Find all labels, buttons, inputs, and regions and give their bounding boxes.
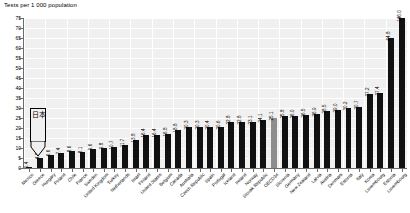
bar-value-label: 26.9 xyxy=(312,108,317,117)
y-axis-tick xyxy=(19,168,23,169)
y-axis-tick xyxy=(19,108,23,109)
bar-value-label: 64.8 xyxy=(386,32,391,41)
y-axis-tick-label: 60 xyxy=(1,46,21,51)
y-axis-tick xyxy=(19,138,23,139)
x-axis-labels: MexicoGreeceHungaryPolandChileFranceSwed… xyxy=(24,172,407,213)
y-axis-tick-label: 70 xyxy=(1,26,21,31)
bar-column[interactable]: 25.1 xyxy=(271,18,277,168)
bar-value-label: 16.4 xyxy=(152,129,157,138)
bar-value-label: 20.6 xyxy=(216,120,221,129)
y-axis-tick-label: 65 xyxy=(1,36,21,41)
bar[interactable] xyxy=(388,38,394,168)
bar-column[interactable]: 16.4 xyxy=(154,18,160,168)
bar-value-label: 37.2 xyxy=(365,87,370,96)
y-axis-tick xyxy=(19,18,23,19)
bar-value-label: 29.0 xyxy=(333,104,338,113)
bar-column[interactable]: 9.8 xyxy=(101,18,107,168)
bar[interactable] xyxy=(250,122,256,168)
bar-value-label: 16.4 xyxy=(141,129,146,138)
bar-column[interactable]: 64.8 xyxy=(388,18,394,168)
y-axis-tick xyxy=(19,148,23,149)
y-axis-tick xyxy=(19,118,23,119)
y-axis-tick xyxy=(19,48,23,49)
bar-column[interactable]: 22.8 xyxy=(228,18,234,168)
bar-column[interactable]: 20.4 xyxy=(207,18,213,168)
bar[interactable] xyxy=(367,94,373,168)
japan-annotation-label: 日本 xyxy=(31,111,47,119)
bar-column[interactable]: 26.9 xyxy=(314,18,320,168)
y-axis-tick-label: 5 xyxy=(1,156,21,161)
y-axis-tick xyxy=(19,98,23,99)
bar-column[interactable]: 11.7 xyxy=(122,18,128,168)
vertical-gridline xyxy=(407,18,408,168)
y-axis-tick-label: 55 xyxy=(1,56,21,61)
bar-value-label: 25.1 xyxy=(269,111,274,120)
bar-column[interactable]: 13.8 xyxy=(133,18,139,168)
bar[interactable] xyxy=(377,93,383,168)
bar-column[interactable]: 29.0 xyxy=(335,18,341,168)
bar-value-label: 10.7 xyxy=(109,140,114,149)
bar[interactable] xyxy=(335,110,341,168)
y-axis-tick-label: 20 xyxy=(1,126,21,131)
bar-column[interactable]: 37.2 xyxy=(367,18,373,168)
bar-value-label: 9.6 xyxy=(88,144,93,150)
bar-value-label: 25.8 xyxy=(280,110,285,119)
bar-value-label: 9.8 xyxy=(99,143,104,149)
bar-column[interactable]: 24.1 xyxy=(260,18,266,168)
bar-column[interactable]: 8.1 xyxy=(80,18,86,168)
bar-column[interactable]: 26.5 xyxy=(303,18,309,168)
bar-value-label: 8.1 xyxy=(78,147,83,153)
bar-value-label: 28.5 xyxy=(322,105,327,114)
bar-value-label: 22.8 xyxy=(226,116,231,125)
y-axis-tick-label: 25 xyxy=(1,116,21,121)
bar-value-label: 22.8 xyxy=(237,116,242,125)
y-axis-tick-label: 40 xyxy=(1,86,21,91)
bar-value-label: 146.0 xyxy=(397,10,402,22)
y-axis-tick-label: 15 xyxy=(1,136,21,141)
y-axis-tick xyxy=(19,128,23,129)
bar-value-label: 20.3 xyxy=(184,121,189,130)
y-axis-tick xyxy=(19,88,23,89)
bar-column[interactable]: 16.8 xyxy=(165,18,171,168)
bar-column[interactable]: 20.3 xyxy=(186,18,192,168)
bar-value-label: 18.8 xyxy=(173,124,178,133)
y-axis-tick-label: 45 xyxy=(1,76,21,81)
bar-value-label: 13.8 xyxy=(131,134,136,143)
bar-column[interactable]: 37.4 xyxy=(377,18,383,168)
bar-column[interactable]: 30.2 xyxy=(346,18,352,168)
japan-annotation: 日本 xyxy=(30,108,46,158)
bar-value-label: 24.1 xyxy=(258,113,263,122)
bar[interactable] xyxy=(346,108,352,168)
y-axis-tick-label: 10 xyxy=(1,146,21,151)
bar-column[interactable]: 18.8 xyxy=(175,18,181,168)
bar-value-label: 11.7 xyxy=(120,138,125,147)
y-axis-tick-label: 35 xyxy=(1,96,21,101)
bar[interactable] xyxy=(143,135,149,168)
bar[interactable] xyxy=(399,18,405,168)
bar-column[interactable]: 20.3 xyxy=(197,18,203,168)
bar-value-label: 23.1 xyxy=(248,115,253,124)
y-axis-tick xyxy=(19,58,23,59)
bar-column[interactable]: 7.4 xyxy=(58,18,64,168)
chart-root: Tests per 1 000 population 0510152025303… xyxy=(0,0,410,213)
bar-column[interactable]: 26.0 xyxy=(292,18,298,168)
bar-column[interactable]: 16.4 xyxy=(143,18,149,168)
bar-column[interactable]: 6.6 xyxy=(48,18,54,168)
bar-column[interactable]: 10.7 xyxy=(111,18,117,168)
y-axis-tick xyxy=(19,68,23,69)
bar-column[interactable]: 30.7 xyxy=(356,18,362,168)
bar-value-label: 30.7 xyxy=(354,100,359,109)
bar-column[interactable]: 8.6 xyxy=(69,18,75,168)
bar-column[interactable]: 20.6 xyxy=(218,18,224,168)
y-axis-tick-label: 30 xyxy=(1,106,21,111)
bar-column[interactable]: 23.1 xyxy=(250,18,256,168)
bar-column[interactable]: 22.8 xyxy=(239,18,245,168)
bar-column[interactable]: 28.5 xyxy=(324,18,330,168)
y-axis-tick xyxy=(19,78,23,79)
bar-column[interactable]: 146.0 xyxy=(399,18,405,168)
y-axis-labels: 051015202530354045505560657075 xyxy=(0,0,21,213)
bar-value-label: 16.8 xyxy=(163,128,168,137)
bar[interactable] xyxy=(356,107,362,168)
bar-column[interactable]: 25.8 xyxy=(282,18,288,168)
bar-column[interactable]: 9.6 xyxy=(90,18,96,168)
